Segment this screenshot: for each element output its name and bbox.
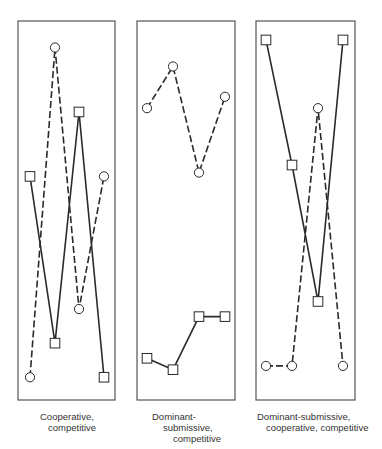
circle-marker-icon: [261, 361, 270, 370]
square-marker-icon: [168, 365, 178, 375]
series-line-square-solid: [147, 317, 225, 370]
square-marker-icon: [194, 312, 204, 322]
chart-figure: [0, 0, 382, 449]
panel-caption-3: Dominant-submissive,cooperative, competi…: [257, 411, 368, 433]
square-marker-icon: [220, 312, 230, 322]
circle-marker-icon: [194, 168, 203, 177]
caption-line: competitive: [40, 422, 96, 433]
chart-panel-1: [18, 21, 115, 400]
circle-marker-icon: [142, 104, 151, 113]
caption-line: Dominant-submissive,: [257, 411, 368, 422]
square-marker-icon: [74, 107, 84, 117]
circle-marker-icon: [220, 92, 229, 101]
series-line-circle-dashed: [30, 48, 104, 378]
caption-line: submissive,: [152, 422, 221, 433]
square-marker-icon: [50, 338, 60, 348]
circle-marker-icon: [25, 373, 34, 382]
series-line-square-solid: [266, 40, 343, 302]
caption-line: Cooperative,: [40, 411, 96, 422]
series-line-circle-dashed: [147, 66, 225, 172]
circle-marker-icon: [168, 62, 177, 71]
square-marker-icon: [338, 35, 348, 45]
series-line-circle-dashed: [266, 108, 343, 366]
circle-marker-icon: [338, 361, 347, 370]
series-line-square-solid: [30, 112, 104, 377]
circle-marker-icon: [50, 43, 59, 52]
caption-line: competitive: [152, 433, 221, 444]
circle-marker-icon: [74, 304, 83, 313]
circle-marker-icon: [313, 104, 322, 113]
chart-panel-3: [256, 21, 355, 400]
panel-caption-2: Dominant-submissive,competitive: [152, 411, 221, 444]
circle-marker-icon: [287, 361, 296, 370]
square-marker-icon: [142, 354, 152, 364]
square-marker-icon: [99, 372, 109, 382]
square-marker-icon: [287, 160, 297, 170]
chart-panel-2: [137, 21, 235, 400]
panel-caption-1: Cooperative,competitive: [40, 411, 96, 433]
square-marker-icon: [261, 35, 271, 45]
caption-line: Dominant-: [152, 411, 221, 422]
square-marker-icon: [313, 297, 323, 307]
caption-line: cooperative, competitive: [257, 422, 368, 433]
square-marker-icon: [25, 172, 35, 182]
circle-marker-icon: [99, 172, 108, 181]
